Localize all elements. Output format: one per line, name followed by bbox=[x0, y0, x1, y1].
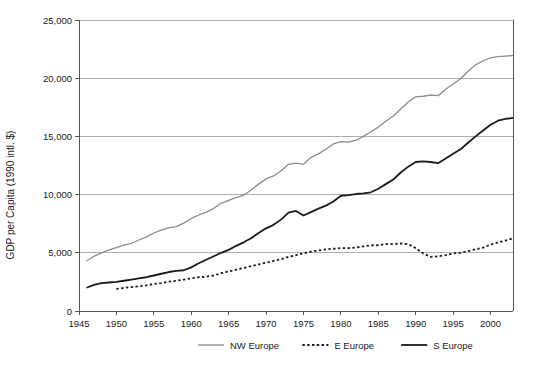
x-axis bbox=[79, 20, 513, 315]
x-tick-label: 1950 bbox=[106, 318, 127, 329]
x-tick-label: 2000 bbox=[480, 318, 501, 329]
chart-svg: 05,00010,00015,00020,00025,000 194519501… bbox=[0, 0, 537, 371]
series-line-nw-europe bbox=[86, 56, 513, 261]
y-axis bbox=[75, 20, 79, 311]
series-line-s-europe bbox=[86, 118, 513, 288]
series-line-e-europe bbox=[116, 238, 513, 289]
x-tick-label: 1995 bbox=[443, 318, 464, 329]
x-tick-label: 1970 bbox=[255, 318, 276, 329]
y-tick-labels: 05,00010,00015,00020,00025,000 bbox=[43, 15, 72, 317]
y-axis-title: GDP per Capita (1990 intl. $) bbox=[5, 131, 16, 260]
y-tick-label: 10,000 bbox=[43, 189, 72, 200]
legend-label-e-europe: E Europe bbox=[334, 340, 374, 351]
x-tick-label: 1985 bbox=[368, 318, 389, 329]
plot-series-group bbox=[86, 56, 513, 289]
y-tick-label: 5,000 bbox=[48, 247, 72, 258]
x-tick-label: 1960 bbox=[181, 318, 202, 329]
x-tick-labels: 1945195019551960196519701975198019851990… bbox=[68, 318, 501, 329]
x-tick-label: 1975 bbox=[293, 318, 314, 329]
x-tick-label: 1955 bbox=[143, 318, 164, 329]
y-tick-label: 15,000 bbox=[43, 131, 72, 142]
y-tick-label: 25,000 bbox=[43, 15, 72, 26]
legend-label-s-europe: S Europe bbox=[433, 340, 473, 351]
x-tick-label: 1980 bbox=[330, 318, 351, 329]
x-tick-label: 1990 bbox=[405, 318, 426, 329]
gridlines-group bbox=[79, 20, 513, 253]
legend-label-nw-europe: NW Europe bbox=[230, 340, 279, 351]
gdp-per-capita-line-chart: 05,00010,00015,00020,00025,000 194519501… bbox=[0, 0, 537, 371]
x-tick-label: 1945 bbox=[68, 318, 89, 329]
y-tick-label: 0 bbox=[67, 306, 72, 317]
legend: NW EuropeE EuropeS Europe bbox=[198, 340, 473, 351]
y-tick-label: 20,000 bbox=[43, 73, 72, 84]
x-tick-label: 1965 bbox=[218, 318, 239, 329]
